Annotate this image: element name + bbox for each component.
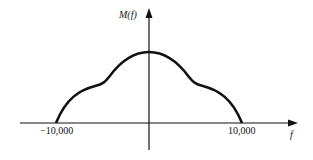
x-axis-label: f (290, 129, 294, 140)
y-axis-label: M(f) (118, 9, 137, 21)
y-axis-arrow-icon (146, 8, 153, 18)
tick-label-right: 10,000 (228, 125, 256, 136)
tick-label-left: −10,000 (40, 125, 73, 136)
spectrum-diagram: M(f) f −10,000 10,000 (0, 0, 313, 160)
x-axis-arrow-icon (288, 120, 298, 127)
